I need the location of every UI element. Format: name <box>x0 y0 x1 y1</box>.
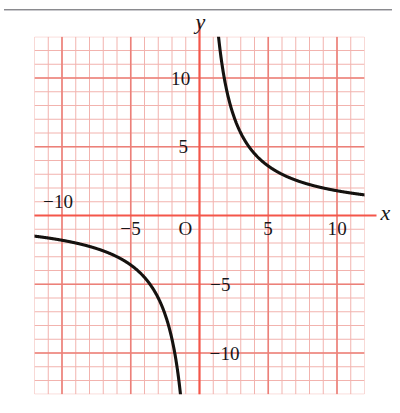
origin-label: O <box>179 219 193 238</box>
y-tick-label--10: −10 <box>210 344 240 363</box>
x-axis-label: x <box>381 202 391 224</box>
y-tick-label-10: 10 <box>171 69 190 88</box>
x-tick-label-5: 5 <box>263 219 273 238</box>
graph-figure: y x O −10 −5 5 10 10 5 −5 −10 <box>0 0 400 413</box>
x-tick-label--5: −5 <box>120 219 141 238</box>
y-axis-label: y <box>196 11 206 33</box>
y-tick-label-5: 5 <box>179 137 189 156</box>
x-tick-label-10: 10 <box>328 219 347 238</box>
x-tick-label--10: −10 <box>43 192 73 211</box>
y-tick-label--5: −5 <box>210 275 231 294</box>
